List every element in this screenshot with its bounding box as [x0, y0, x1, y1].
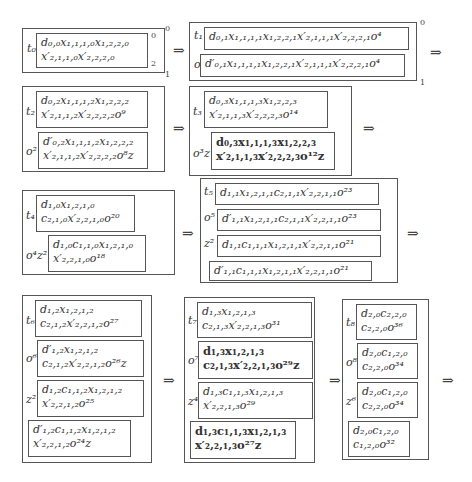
membrane-t6: d₁,₂x₁,₂,₁,₂c₂,₁,₂x′₂,₂,₁,₂o²⁷	[35, 300, 142, 337]
label-z2: z²	[26, 393, 36, 406]
arrow-icon: ⇒	[173, 42, 185, 58]
arrow-icon: ⇒	[182, 225, 194, 241]
text: d′₁,₁c₁,₁,₁x₁,₂,₁,₁x′₂,₂,₁,₁o²¹	[214, 264, 367, 278]
text: x′₂,₁,₁,₃x′₂,₂,₂,₃o¹²z	[216, 149, 330, 163]
label-t1: t₁	[194, 29, 203, 42]
membrane-t4: d₁,₀x₁,₂,₁,₀c₂,₁,₀x′₂,₂,₁,₀o²⁰	[36, 195, 135, 232]
membrane-t1: d₀,₁x₁,₁,₁,₁x₁,₂,₂,₁x′₂,₁,₁,₁x′₂,₂,₂,₁o⁴	[204, 27, 409, 50]
label-z6: z⁶	[346, 395, 356, 408]
text: x′₂,₂,₁,₃o²⁷z	[195, 438, 291, 452]
membrane-o: d′₀,₁x₁,₁,₁,₁x₁,₂,₂,₁x′₂,₁,₁,₁x′₂,₂,₂,₁o…	[200, 54, 405, 77]
num: 1	[420, 78, 425, 87]
text: d₁,₂c₁,₁,₂x₁,₂,₁,₂	[42, 383, 139, 397]
membrane-r2b-outer: t₃ d₀,₃x₁,₁,₁,₃x₁,₂,₂,₃x′₂,₁,₁,₃x′₂,₂,₂,…	[189, 86, 352, 176]
text: d′₀,₁x₁,₁,₁,₁x₁,₂,₂,₁x′₂,₁,₁,₁x′₂,₂,₂,₁o…	[205, 57, 400, 71]
text: d′₁,₂x₁,₂,₁,₂	[42, 343, 139, 357]
arrow-icon: ⇒	[442, 372, 454, 388]
label-t3: t₃	[193, 105, 202, 118]
text: c₂,₂,₀o³⁴	[362, 399, 413, 413]
membrane-z2: d₁,₁c₁,₁,₁x₁,₂,₁,₁x′₂,₂,₁,₁o²¹	[217, 235, 381, 257]
membrane-t3: d₀,₃x₁,₁,₁,₃x₁,₂,₂,₃x′₂,₁,₁,₃x′₂,₂,₂,₃o¹…	[204, 91, 328, 128]
label-t7: t₇	[188, 314, 197, 327]
membrane-t7: d₁,₃x₁,₂,₁,₃c₂,₁,₃x′₂,₂,₁,₃o³¹	[197, 302, 312, 338]
label-z4: z⁴	[188, 395, 198, 408]
text: x′₂,₁,₁,₃x′₂,₂,₂,₃o¹⁴	[209, 108, 323, 122]
text: d₁,₂x₁,₂,₁,₂	[40, 303, 137, 317]
arrow-icon: ⇒	[407, 225, 419, 241]
membrane-d8: d₂,₀c₁,₂,₀c₁,₂,₀o³²	[348, 421, 410, 457]
num: 0	[165, 24, 170, 33]
text: x′₂,₂,₁,₂o²⁵	[42, 397, 139, 411]
label-o8: o⁸	[346, 356, 357, 369]
label-o5: o⁵	[204, 211, 215, 224]
text: x′₂,₁,₁,₂x′₂,₂,₂,₂o⁸z	[43, 149, 143, 163]
text: d₀,₂x₁,₁,₁,₂x₁,₂,₂,₂	[41, 94, 143, 108]
text: d₁,₁x₁,₂,₁,₁c₂,₁,₁x′₂,₂,₁,₁o²³	[220, 186, 374, 200]
membrane-d7: d₁,₃c₁,₁,₃x₁,₂,₁,₃x′₂,₂,₁,₃o²⁷z	[190, 421, 296, 459]
membrane-r3b-outer: t₅ d₁,₁x₁,₂,₁,₁c₂,₁,₁x′₂,₂,₁,₁o²³ o⁵ d′₁…	[200, 178, 398, 283]
text: d′₀,₂x₁,₁,₁,₂x₁,₂,₂,₂	[43, 135, 143, 149]
membrane-r1b-outer: t₁ d₀,₁x₁,₁,₁,₁x₁,₂,₂,₁x′₂,₁,₁,₁x′₂,₂,₂,…	[189, 22, 417, 81]
membrane-o2: d′₀,₂x₁,₁,₁,₂x₁,₂,₂,₂x′₂,₁,₁,₂x′₂,₂,₂,₂o…	[38, 132, 148, 169]
text: x′₂,₂,₁,₀o¹⁸	[53, 252, 141, 266]
text: d₂,₀c₁,₂,₀	[362, 346, 413, 360]
membrane-r4b-outer: t₇ d₁,₃x₁,₂,₁,₃c₂,₁,₃x′₂,₂,₁,₃o³¹ o⁷ d₁,…	[184, 297, 315, 463]
label-t2: t₂	[26, 105, 35, 118]
text: c₂,₁,₂x′₂,₂,₁,₂o²⁷	[40, 317, 137, 331]
membrane-t2: d₀,₂x₁,₁,₁,₂x₁,₂,₂,₂x′₂,₁,₁,₂x′₂,₂,₂,₂o⁹	[36, 91, 148, 128]
membrane-r1-outer: t₀ d₀,₀x₁,₁,₁,₀x₁,₂,₂,₀ x′₂,₁,₁,₀x′₂,₂,₂…	[22, 28, 165, 73]
membrane-d: d′₁,₁c₁,₁,₁x₁,₂,₁,₁x′₂,₂,₁,₁o²¹	[209, 261, 372, 281]
text: d₀,₀x₁,₁,₁,₀x₁,₂,₂,₀	[41, 36, 143, 50]
membrane-o4z2: d₁,₀c₁,₁,₀x₁,₂,₁,₀x′₂,₂,₁,₀o¹⁸	[48, 235, 146, 272]
text: d₁,₀x₁,₂,₁,₀	[41, 198, 130, 212]
text: d₂,₀c₂,₂,₀	[361, 307, 412, 321]
arrow-icon: ⇒	[173, 120, 185, 136]
text: d′₁,₁x₁,₂,₁,₁c₂,₁,₁x′₂,₂,₁,₁o²³	[222, 212, 376, 226]
label-t0: t₀	[27, 42, 36, 55]
membrane-r1-inner: d₀,₀x₁,₁,₁,₀x₁,₂,₂,₀ x′₂,₁,₁,₀x′₂,₂,₂,₀	[36, 33, 148, 68]
text: d₁,₀c₁,₁,₀x₁,₂,₁,₀	[53, 238, 141, 252]
membrane-r4c-outer: t₈ d₂,₀c₂,₂,₀c₂,₂,₀o³⁶ o⁸ d₂,₀c₁,₂,₀c₂,₂…	[342, 299, 429, 460]
text: c₂,₂,₀o³⁶	[361, 321, 412, 335]
text: d₁,₃c₁,₁,₃x₁,₂,₁,₃	[203, 385, 308, 399]
text: d′₁,₂c₁,₁,₂x₁,₂,₁,₂	[33, 423, 126, 437]
text: d₀,₃x₁,₁,₁,₃x₁,₂,₂,₃	[209, 94, 323, 108]
membrane-z2b: d₁,₂c₁,₁,₂x₁,₂,₁,₂x′₂,₂,₁,₂o²⁵	[37, 380, 144, 417]
label-o2: o²	[26, 145, 37, 158]
label-t5: t₅	[204, 185, 213, 198]
label-t6: t₆	[26, 314, 35, 327]
text: c₂,₁,₀x′₂,₂,₁,₀o²⁰	[41, 212, 130, 226]
membrane-r3-outer: t₄ d₁,₀x₁,₂,₁,₀c₂,₁,₀x′₂,₂,₁,₀o²⁰ o⁴z² d…	[22, 190, 175, 275]
label-t8: t₈	[346, 316, 355, 329]
num: 0	[420, 18, 425, 27]
text: x′₂,₂,₁,₂o²⁴z	[33, 437, 126, 451]
label-z2: z²	[204, 237, 214, 250]
text: c₂,₂,₀o³⁴	[362, 360, 413, 374]
membrane-o5: d′₁,₁x₁,₂,₁,₁c₂,₁,₁x′₂,₂,₁,₁o²³	[217, 209, 381, 231]
text: d₁,₃c₁,₁,₃x₁,₂,₁,₃	[195, 424, 291, 438]
text: c₂,₁,₂x′₂,₂,₁,₂o²⁶z	[42, 357, 139, 371]
arrow-icon: ⇒	[163, 372, 175, 388]
num: 0	[151, 31, 156, 40]
text: c₁,₂,₀o³²	[353, 438, 405, 452]
text: d₁,₁c₁,₁,₁x₁,₂,₁,₁x′₂,₂,₁,₁o²¹	[222, 238, 376, 252]
membrane-z4: d₁,₃c₁,₁,₃x₁,₂,₁,₃x′₂,₂,₁,₃o²⁹	[198, 382, 313, 419]
text: c₂,₁,₃x′₂,₂,₁,₃o²⁹z	[203, 358, 308, 372]
text: d₁,₃x₁,₂,₁,₃	[202, 305, 307, 319]
membrane-o7: d₁,₃x₁,₂,₁,₃c₂,₁,₃x′₂,₂,₁,₃o²⁹z	[198, 341, 313, 379]
text: x′₂,₁,₁,₂x′₂,₂,₂,₂o⁹	[41, 108, 143, 122]
arrow-icon: ⇒	[363, 120, 375, 136]
num: 1	[165, 70, 170, 79]
label-o3z: o³z	[193, 147, 210, 160]
label-o4z2: o⁴z²	[26, 249, 47, 262]
label-o6: o⁶	[26, 352, 37, 365]
text: d₂,₀c₁,₂,₀	[362, 385, 413, 399]
arrow-icon: ⇒	[329, 372, 341, 388]
text: x′₂,₂,₁,₃o²⁹	[203, 399, 308, 413]
membrane-t5: d₁,₁x₁,₂,₁,₁c₂,₁,₁x′₂,₂,₁,₁o²³	[215, 183, 379, 205]
text: x′₂,₁,₁,₀x′₂,₂,₂,₀	[41, 50, 143, 64]
text: d₀,₃x₁,₁,₁,₃x₁,₂,₂,₃	[216, 135, 330, 149]
membrane-z6: d₂,₀c₁,₂,₀c₂,₂,₀o³⁴	[357, 382, 418, 418]
membrane-o6: d′₁,₂x₁,₂,₁,₂c₂,₁,₂x′₂,₂,₁,₂o²⁶z	[37, 340, 144, 377]
label-t4: t₄	[26, 209, 35, 222]
